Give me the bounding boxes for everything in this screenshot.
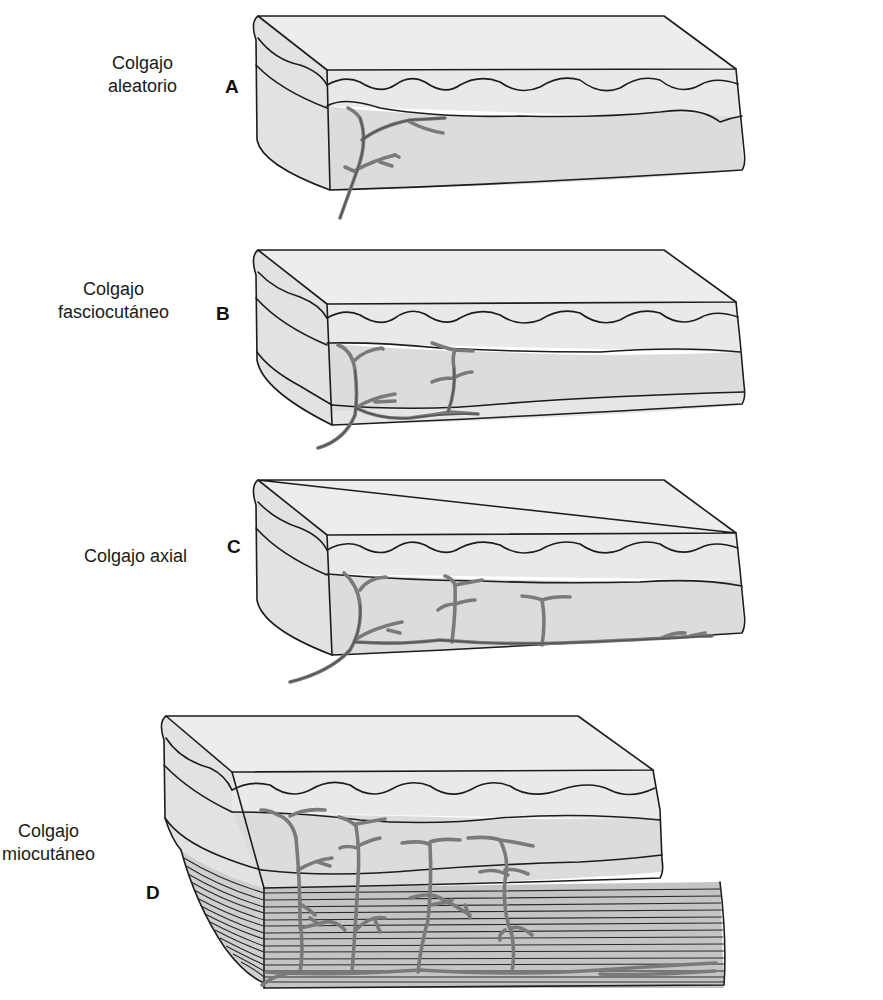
- block-a: [253, 16, 744, 218]
- block-b: [253, 250, 744, 448]
- block-c: [253, 480, 744, 682]
- block-d: [161, 716, 724, 988]
- flap-diagram: [0, 0, 883, 1000]
